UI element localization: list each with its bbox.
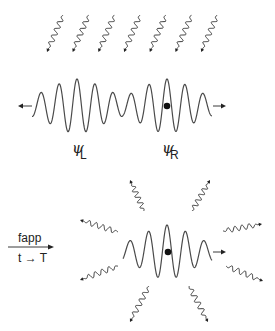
right-arrow-icon xyxy=(213,104,226,109)
left-arrow-icon xyxy=(18,104,32,109)
process-label: fapp xyxy=(18,231,42,245)
process-arrow xyxy=(8,245,54,250)
psi-right-subscript: R xyxy=(170,148,179,162)
psi-left-subscript: L xyxy=(80,148,87,162)
wavepacket-diagram: ψ L ψ R fapp t → T xyxy=(0,0,275,331)
particle-dot xyxy=(165,249,172,256)
superposition-wave xyxy=(32,79,212,132)
process-sublabel: t → T xyxy=(18,251,48,265)
incoming-photons xyxy=(47,15,218,52)
particle-dot xyxy=(164,103,171,110)
right-arrow-icon xyxy=(213,250,226,255)
